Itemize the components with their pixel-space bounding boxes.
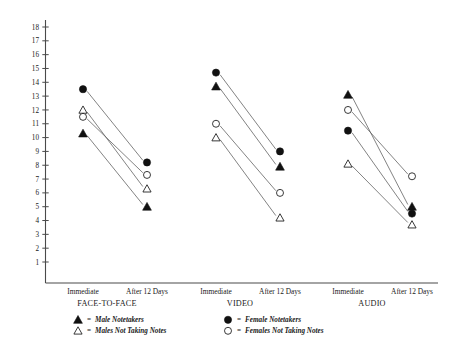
data-point bbox=[80, 113, 87, 120]
x-axis-tick-label: After 12 Days bbox=[391, 287, 433, 296]
legend-label: Males Not Taking Notes bbox=[94, 327, 167, 335]
series-layer bbox=[79, 69, 417, 228]
data-point bbox=[143, 202, 152, 210]
data-point bbox=[408, 210, 415, 217]
legend-label: Females Not Taking Notes bbox=[245, 327, 324, 335]
y-axis-tick-label: 5 bbox=[35, 203, 39, 211]
data-point bbox=[143, 159, 150, 166]
legend-marker-filled-triangle bbox=[74, 316, 83, 324]
data-point bbox=[408, 202, 417, 210]
data-point bbox=[79, 129, 88, 137]
x-axis-tick-label: After 12 Days bbox=[126, 287, 168, 296]
y-axis-tick-label: 7 bbox=[35, 176, 39, 184]
y-axis-tick-label: 2 bbox=[35, 245, 39, 253]
series-segment bbox=[352, 112, 408, 174]
series-segment bbox=[220, 75, 276, 149]
y-axis-tick-label: 9 bbox=[35, 148, 39, 156]
legend-label: Female Notetakers bbox=[245, 316, 301, 324]
y-axis-tick-label: 1 bbox=[35, 259, 39, 267]
y-axis-tick-label: 10 bbox=[32, 134, 40, 142]
y-axis-tick-label: 11 bbox=[32, 120, 39, 128]
y-axis-tick-label: 16 bbox=[32, 51, 40, 59]
x-axis-tick-label: Immediate bbox=[332, 287, 364, 296]
data-point bbox=[344, 127, 351, 134]
chart-legend: =Male Notetakers=Males Not Taking Notes=… bbox=[74, 316, 324, 336]
legend-marker-filled-circle bbox=[224, 316, 231, 323]
y-axis-tick-label: 3 bbox=[35, 231, 39, 239]
data-point bbox=[79, 106, 87, 113]
y-axis-tick-label: 12 bbox=[32, 107, 40, 115]
data-point bbox=[213, 120, 220, 127]
y-axis: 123456789101112131415161718 bbox=[32, 20, 49, 283]
legend-equals: = bbox=[237, 327, 241, 335]
series-segment bbox=[220, 140, 276, 216]
data-point bbox=[276, 162, 285, 170]
x-axis-tick-label: Immediate bbox=[67, 287, 99, 296]
x-axis-tick-label: After 12 Days bbox=[259, 287, 301, 296]
x-axis-tick-label: Immediate bbox=[200, 287, 232, 296]
y-axis-tick-label: 13 bbox=[32, 93, 40, 101]
line-chart: 123456789101112131415161718 ImmediateAft… bbox=[0, 0, 450, 350]
data-point bbox=[276, 214, 284, 221]
group-labels: FACE-TO-FACEVIDEOAUDIO bbox=[77, 299, 385, 308]
group-label: AUDIO bbox=[358, 299, 385, 308]
data-point bbox=[212, 82, 221, 90]
y-axis-tick-label: 14 bbox=[32, 79, 40, 87]
data-point bbox=[277, 189, 284, 196]
y-axis-tick-label: 18 bbox=[32, 24, 40, 32]
series-segment bbox=[220, 89, 276, 165]
legend-label: Male Notetakers bbox=[94, 316, 144, 324]
data-point bbox=[143, 185, 151, 192]
series-segment bbox=[220, 126, 276, 191]
group-label: FACE-TO-FACE bbox=[77, 299, 136, 308]
legend-equals: = bbox=[237, 316, 241, 324]
data-point bbox=[344, 90, 353, 98]
data-point bbox=[144, 171, 151, 178]
data-point bbox=[79, 86, 86, 93]
data-point bbox=[212, 134, 220, 141]
data-point bbox=[409, 173, 416, 180]
legend-equals: = bbox=[87, 327, 91, 335]
data-point bbox=[345, 106, 352, 113]
y-axis-tick-label: 8 bbox=[35, 162, 39, 170]
y-axis-tick-label: 17 bbox=[32, 37, 40, 45]
data-point bbox=[212, 69, 219, 76]
series-segment bbox=[352, 133, 408, 212]
data-point bbox=[408, 221, 416, 228]
data-point bbox=[344, 160, 352, 167]
legend-marker-open-triangle bbox=[74, 327, 82, 334]
data-point bbox=[276, 148, 283, 155]
y-axis-tick-label: 4 bbox=[35, 217, 39, 225]
y-axis-tick-label: 15 bbox=[32, 65, 40, 73]
chart-container: 123456789101112131415161718 ImmediateAft… bbox=[0, 0, 450, 350]
y-axis-tick-label: 6 bbox=[35, 189, 39, 197]
group-label: VIDEO bbox=[227, 299, 253, 308]
series-segment bbox=[87, 112, 143, 186]
legend-equals: = bbox=[87, 316, 91, 324]
x-tick-labels: ImmediateAfter 12 DaysImmediateAfter 12 … bbox=[67, 287, 433, 296]
series-segment bbox=[352, 97, 408, 205]
series-segment bbox=[352, 166, 408, 222]
legend-marker-open-circle bbox=[225, 327, 232, 334]
